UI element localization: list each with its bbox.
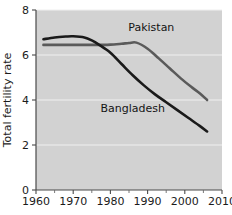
fertility-rate-line-chart: 02468196019701980199020002010 PakistanBa… — [0, 0, 232, 215]
series-line-pakistan — [43, 42, 207, 100]
series-line-bangladesh — [43, 36, 207, 131]
x-tick-label-2010: 2010 — [208, 195, 232, 208]
y-tick-label-8: 8 — [22, 4, 29, 17]
x-tick-label-1960: 1960 — [22, 195, 50, 208]
series-group — [43, 36, 207, 131]
x-tick-label-1990: 1990 — [134, 195, 162, 208]
y-tick-label-6: 6 — [22, 49, 29, 62]
y-axis-title: Total fertility rate — [1, 53, 14, 149]
series-label-bangladesh: Bangladesh — [100, 102, 165, 115]
chart-canvas: 02468196019701980199020002010 PakistanBa… — [0, 0, 232, 215]
y-tick-label-4: 4 — [22, 94, 29, 107]
series-label-pakistan: Pakistan — [128, 21, 174, 34]
x-axis-group — [36, 190, 222, 194]
x-tick-label-1980: 1980 — [96, 195, 124, 208]
x-tick-label-1970: 1970 — [59, 195, 87, 208]
x-tick-label-2000: 2000 — [171, 195, 199, 208]
y-tick-label-2: 2 — [22, 139, 29, 152]
y-axis-group — [32, 10, 36, 190]
